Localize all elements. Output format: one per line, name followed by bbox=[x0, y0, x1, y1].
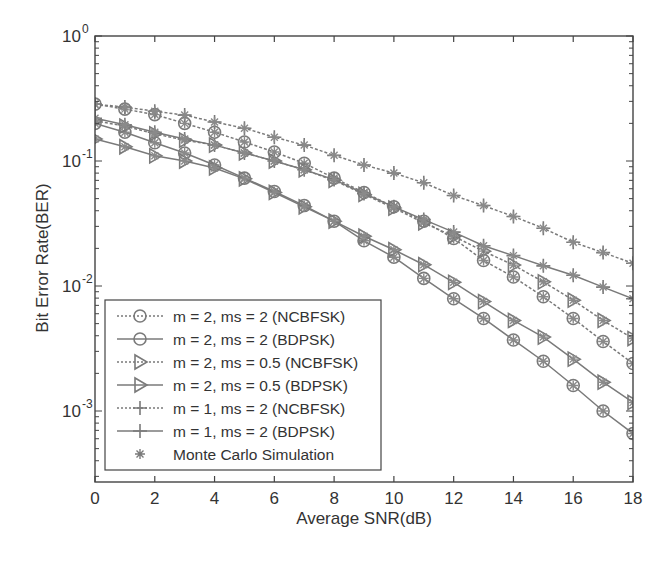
star-marker-icon bbox=[538, 261, 548, 271]
star-marker-icon bbox=[299, 202, 309, 212]
star-marker-icon bbox=[359, 188, 369, 198]
star-marker-icon bbox=[419, 260, 429, 270]
star-marker-icon bbox=[449, 294, 459, 304]
y-tick-exponent: 0 bbox=[82, 22, 89, 36]
star-marker-icon bbox=[508, 211, 518, 221]
x-tick-label: 0 bbox=[90, 489, 99, 508]
star-marker-icon bbox=[538, 223, 548, 233]
star-marker-icon bbox=[568, 237, 578, 247]
star-marker-icon bbox=[269, 156, 279, 166]
star-marker-icon bbox=[150, 106, 160, 116]
x-tick-label: 18 bbox=[624, 489, 643, 508]
star-marker-icon bbox=[568, 270, 578, 280]
star-marker-icon bbox=[210, 117, 220, 127]
legend-label: m = 2, ms = 0.5 (NCBFSK) bbox=[173, 354, 358, 371]
star-marker-icon bbox=[508, 335, 518, 345]
star-marker-icon bbox=[389, 245, 399, 255]
star-marker-icon bbox=[120, 142, 130, 152]
x-tick-label: 8 bbox=[329, 489, 338, 508]
star-marker-icon bbox=[568, 295, 578, 305]
star-marker-icon bbox=[269, 132, 279, 142]
x-tick-label: 6 bbox=[270, 489, 279, 508]
star-marker-icon bbox=[299, 165, 309, 175]
legend-label: m = 2, ms = 2 (NCBFSK) bbox=[173, 308, 345, 325]
star-marker-icon bbox=[389, 202, 399, 212]
star-marker-icon bbox=[479, 241, 489, 251]
star-marker-icon bbox=[479, 313, 489, 323]
star-marker-icon bbox=[419, 273, 429, 283]
star-marker-icon bbox=[329, 175, 339, 185]
star-marker-icon bbox=[150, 151, 160, 161]
star-marker-icon bbox=[538, 277, 548, 287]
star-marker-icon bbox=[598, 315, 608, 325]
x-axis-title: Average SNR(dB) bbox=[296, 509, 432, 528]
star-marker-icon bbox=[419, 178, 429, 188]
star-marker-icon bbox=[508, 272, 518, 282]
star-marker-icon bbox=[150, 127, 160, 137]
x-tick-label: 2 bbox=[150, 489, 159, 508]
star-marker-icon bbox=[120, 102, 130, 112]
star-marker-icon bbox=[568, 354, 578, 364]
y-tick-label: 10 bbox=[62, 402, 81, 421]
star-marker-icon bbox=[598, 336, 608, 346]
y-tick-exponent: -2 bbox=[82, 272, 93, 286]
y-axis-title: Bit Error Rate(BER) bbox=[33, 183, 52, 332]
x-tick-label: 14 bbox=[504, 489, 523, 508]
star-marker-icon bbox=[538, 292, 548, 302]
star-marker-icon bbox=[210, 140, 220, 150]
star-marker-icon bbox=[508, 251, 518, 261]
y-tick-label: 10 bbox=[62, 277, 81, 296]
star-marker-icon bbox=[329, 150, 339, 160]
y-tick-label: 10 bbox=[62, 27, 81, 46]
star-marker-icon bbox=[508, 315, 518, 325]
series-line bbox=[88, 111, 640, 306]
star-marker-icon bbox=[239, 174, 249, 184]
star-marker-icon bbox=[568, 380, 578, 390]
star-marker-icon bbox=[598, 406, 608, 416]
star-marker-icon bbox=[299, 140, 309, 150]
star-marker-icon bbox=[479, 297, 489, 307]
star-marker-icon bbox=[449, 277, 459, 287]
star-marker-icon bbox=[449, 190, 459, 200]
y-tick-exponent: -3 bbox=[82, 397, 93, 411]
star-marker-icon bbox=[479, 201, 489, 211]
ber-chart: 024681012141618 10010-110-210-3 Average … bbox=[0, 0, 671, 561]
x-tick-label: 4 bbox=[210, 489, 219, 508]
legend-label: m = 2, ms = 0.5 (BDPSK) bbox=[173, 377, 348, 394]
legend-label: Monte Carlo Simulation bbox=[173, 446, 334, 463]
star-marker-icon bbox=[598, 248, 608, 258]
legend-label: m = 1, ms = 2 (BDPSK) bbox=[173, 423, 335, 440]
star-marker-icon bbox=[239, 148, 249, 158]
star-marker-icon bbox=[120, 120, 130, 130]
star-marker-icon bbox=[210, 163, 220, 173]
star-marker-icon bbox=[239, 123, 249, 133]
star-marker-icon bbox=[389, 168, 399, 178]
series-path bbox=[95, 118, 633, 299]
star-marker-icon bbox=[538, 332, 548, 342]
star-marker-icon bbox=[269, 187, 279, 197]
legend-label: m = 1, ms = 2 (NCBFSK) bbox=[173, 400, 345, 417]
star-marker-icon bbox=[449, 227, 459, 237]
legend-label: m = 2, ms = 2 (BDPSK) bbox=[173, 331, 335, 348]
star-marker-icon bbox=[568, 313, 578, 323]
star-marker-icon bbox=[598, 282, 608, 292]
star-marker-icon bbox=[135, 449, 145, 459]
star-marker-icon bbox=[598, 377, 608, 387]
star-marker-icon bbox=[359, 231, 369, 241]
star-marker-icon bbox=[180, 134, 190, 144]
x-tick-label: 16 bbox=[564, 489, 583, 508]
star-marker-icon bbox=[239, 137, 249, 147]
y-tick-exponent: -1 bbox=[82, 147, 93, 161]
legend: m = 2, ms = 2 (NCBFSK)m = 2, ms = 2 (BDP… bbox=[105, 300, 381, 470]
y-tick-label: 10 bbox=[62, 152, 81, 171]
x-tick-label: 12 bbox=[444, 489, 463, 508]
star-marker-icon bbox=[329, 216, 339, 226]
star-marker-icon bbox=[419, 215, 429, 225]
star-marker-icon bbox=[538, 356, 548, 366]
star-marker-icon bbox=[359, 160, 369, 170]
x-tick-label: 10 bbox=[384, 489, 403, 508]
star-marker-icon bbox=[180, 110, 190, 120]
star-marker-icon bbox=[180, 156, 190, 166]
